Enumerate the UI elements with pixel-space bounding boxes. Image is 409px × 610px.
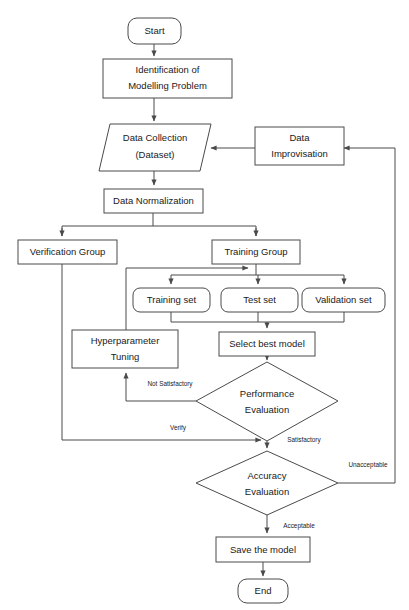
training-group-label: Training Group xyxy=(224,246,287,257)
flowchart-canvas: Start Identification of Modelling Proble… xyxy=(0,0,409,610)
node-data-collection[interactable]: Data Collection (Dataset) xyxy=(99,124,211,171)
node-save-the-model[interactable]: Save the model xyxy=(216,537,310,562)
node-validation-set[interactable]: Validation set xyxy=(302,288,385,312)
performance-evaluation-label-line2: Evaluation xyxy=(245,404,289,415)
node-data-improvisation[interactable]: Data Improvisation xyxy=(255,127,344,165)
edge-normalization-bus-right xyxy=(153,226,256,236)
node-start[interactable]: Start xyxy=(128,18,181,44)
data-improvisation-label-line2: Improvisation xyxy=(271,148,328,159)
node-performance-evaluation[interactable]: Performance Evaluation xyxy=(196,362,338,441)
data-improvisation-label-line1: Data xyxy=(289,132,310,143)
node-training-group[interactable]: Training Group xyxy=(212,240,300,264)
node-training-set[interactable]: Training set xyxy=(133,288,210,312)
edge-performance-not-satisfactory xyxy=(126,373,196,401)
verification-group-label: Verification Group xyxy=(30,246,106,257)
accuracy-evaluation-label-line2: Evaluation xyxy=(245,486,289,497)
data-normalization-label: Data Normalization xyxy=(113,195,194,206)
start-label: Start xyxy=(144,25,164,36)
edge-label-not-satisfactory: Not Satisfactory xyxy=(147,380,193,388)
performance-evaluation-label-line1: Performance xyxy=(240,388,294,399)
edge-normalization-bus xyxy=(62,213,153,236)
flowchart-svg: Start Identification of Modelling Proble… xyxy=(0,0,409,610)
accuracy-evaluation-label-line1: Accuracy xyxy=(247,470,286,481)
node-end[interactable]: End xyxy=(238,579,288,603)
data-collection-label-line2: (Dataset) xyxy=(135,149,174,160)
save-the-model-label: Save the model xyxy=(230,544,296,555)
accuracy-evaluation-shape xyxy=(196,451,338,515)
performance-evaluation-shape xyxy=(196,362,338,441)
test-set-label: Test set xyxy=(243,294,276,305)
select-best-model-label: Select best model xyxy=(229,338,305,349)
validation-set-label: Validation set xyxy=(315,294,372,305)
node-verification-group[interactable]: Verification Group xyxy=(18,240,117,264)
edge-label-unacceptable: Unacceptable xyxy=(348,461,388,469)
node-hyperparameter-tuning[interactable]: Hyperparameter Tuning xyxy=(72,330,178,368)
edge-label-acceptable: Acceptable xyxy=(283,522,315,530)
end-label: End xyxy=(255,585,272,596)
node-test-set[interactable]: Test set xyxy=(221,288,298,312)
training-set-label: Training set xyxy=(147,294,197,305)
node-data-normalization[interactable]: Data Normalization xyxy=(104,189,203,213)
edge-label-verify: Verify xyxy=(170,424,187,432)
edge-label-satisfactory: Satisfactory xyxy=(287,436,321,444)
hyperparameter-tuning-label-line2: Tuning xyxy=(111,351,140,362)
identification-label-line2: Modelling Problem xyxy=(128,80,207,91)
data-collection-label-line1: Data Collection xyxy=(123,132,187,143)
node-select-best-model[interactable]: Select best model xyxy=(219,332,315,356)
edge-accuracy-unacceptable xyxy=(338,148,395,483)
node-accuracy-evaluation[interactable]: Accuracy Evaluation xyxy=(196,451,338,515)
identification-label-line1: Identification of xyxy=(136,64,200,75)
node-identification[interactable]: Identification of Modelling Problem xyxy=(103,59,232,98)
hyperparameter-tuning-label-line1: Hyperparameter xyxy=(91,335,160,346)
